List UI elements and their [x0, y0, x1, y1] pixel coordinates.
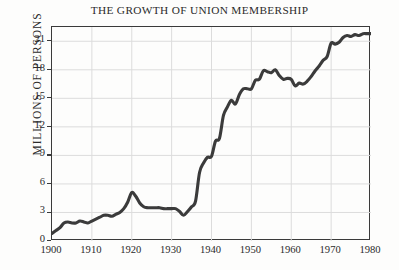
y-tick-label: 18	[5, 62, 45, 73]
chart-title: THE GROWTH OF UNION MEMBERSHIP	[0, 4, 399, 16]
x-tick-label: 1980	[345, 244, 395, 255]
plot-svg	[52, 27, 371, 241]
plot-area	[51, 26, 370, 240]
y-tick-label: 6	[5, 176, 45, 187]
y-tick-mark	[47, 240, 51, 241]
y-tick-label: 0	[5, 233, 45, 244]
y-tick-label: 21	[5, 33, 45, 44]
y-tick-label: 3	[5, 204, 45, 215]
y-tick-label: 9	[5, 147, 45, 158]
y-tick-label: 12	[5, 119, 45, 130]
chart-figure: THE GROWTH OF UNION MEMBERSHIP MILLIONS …	[0, 0, 399, 270]
y-tick-label: 15	[5, 90, 45, 101]
